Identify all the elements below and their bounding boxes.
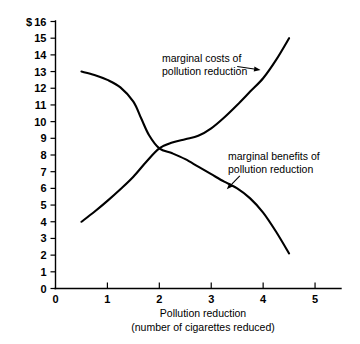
y-tick-label-11: 11 [35,99,47,111]
y-tick-label-0: 0 [40,283,46,295]
y-tick-label-1: 1 [40,266,46,278]
x-axis-caption-line2: (number of cigarettes reduced) [131,321,275,333]
x-axis-caption-line1: Pollution reduction [160,307,247,319]
y-tick-label-9: 9 [40,132,46,144]
annotation-costs: marginal costs of pollution reduction [162,52,261,77]
annotation-benefits: marginal benefits of pollution reduction [227,150,320,189]
y-tick-label-10: 10 [34,116,46,128]
y-tick-label-12: 12 [34,82,46,94]
x-tick-label-3: 3 [208,293,214,305]
x-axis-ticks [107,283,315,289]
y-tick-label-16: 16 [34,16,46,28]
y-axis-unit-label: $ [26,16,32,28]
x-tick-label-2: 2 [156,293,162,305]
annotation-benefits-line1: marginal benefits of [228,150,320,162]
y-tick-label-4: 4 [40,216,47,228]
x-tick-label-5: 5 [312,293,318,305]
x-axis-tick-labels: 012345 [52,293,318,305]
y-axis-ticks [51,22,56,289]
y-tick-label-3: 3 [40,232,46,244]
y-tick-label-8: 8 [40,149,46,161]
y-tick-label-5: 5 [40,199,46,211]
x-tick-label-4: 4 [260,293,267,305]
y-axis-tick-labels: 012345678910111213141516 [34,16,47,295]
y-tick-label-13: 13 [34,66,46,78]
x-tick-label-1: 1 [104,293,110,305]
x-tick-label-0: 0 [52,293,58,305]
x-axis-caption: Pollution reduction (number of cigarette… [131,307,275,333]
annotation-costs-line1: marginal costs of [162,52,241,64]
annotation-costs-line2: pollution reduction [162,65,247,77]
y-tick-label-6: 6 [40,182,46,194]
y-tick-label-7: 7 [40,166,46,178]
chart-figure: 012345678910111213141516 012345 $ margin… [0,0,360,344]
annotation-benefits-line2: pollution reduction [228,163,313,175]
y-tick-label-15: 15 [34,32,46,44]
economics-line-chart: 012345678910111213141516 012345 $ margin… [0,0,360,344]
y-tick-label-14: 14 [34,49,47,61]
y-tick-label-2: 2 [40,249,46,261]
